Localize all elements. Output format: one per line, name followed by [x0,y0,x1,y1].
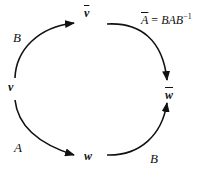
equation-exponent: −1 [183,12,192,21]
node-v-bar: v [84,7,89,19]
equation-rhs: BAB [161,13,183,27]
conjugation-equation: A = BAB−1 [141,13,192,26]
conjugation-diagram: v v w w B A B A = BAB−1 [0,0,211,170]
edge-label-b-bottom: B [150,152,158,165]
arrow-v-to-vbar [15,23,74,78]
edge-label-a: A [14,141,22,154]
node-v: v [8,81,13,93]
node-w-bar: w [165,89,173,101]
arrow-v-to-w [15,100,74,155]
node-w: w [84,150,92,162]
edge-label-b-top: B [13,31,21,44]
arrow-vbar-to-wbar [107,24,167,80]
equation-equals: = [148,13,161,27]
arrow-w-to-wbar [107,103,167,155]
